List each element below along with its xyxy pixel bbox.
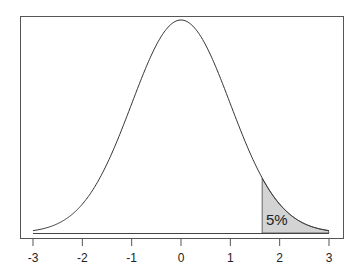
plot-frame bbox=[21, 17, 344, 239]
x-tick-label: -2 bbox=[77, 251, 88, 265]
x-axis: -3-2-10123 bbox=[28, 239, 333, 265]
x-tick-label: -3 bbox=[28, 251, 39, 265]
x-tick-label: 1 bbox=[227, 251, 234, 265]
x-tick-label: -1 bbox=[126, 251, 137, 265]
tail-percentage-label: 5% bbox=[266, 211, 288, 228]
normal-distribution-chart: -3-2-10123 5% bbox=[0, 0, 363, 278]
x-tick-label: 2 bbox=[276, 251, 283, 265]
density-curve bbox=[33, 20, 329, 231]
x-tick-label: 0 bbox=[178, 251, 185, 265]
x-tick-label: 3 bbox=[326, 251, 333, 265]
density-line bbox=[33, 20, 329, 231]
